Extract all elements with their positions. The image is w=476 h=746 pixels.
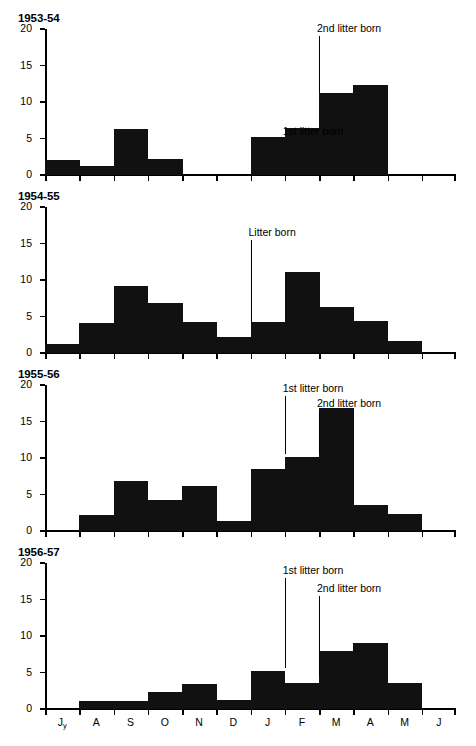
x-axis-tick — [422, 353, 424, 359]
x-axis-tick — [45, 709, 47, 715]
y-axis-tick-label: 15 — [20, 416, 32, 426]
bar-M — [319, 307, 354, 353]
y-axis-line — [45, 29, 47, 175]
annotation-line — [319, 596, 320, 676]
y-axis-tick-label: 10 — [20, 96, 32, 106]
x-axis-tick — [148, 709, 150, 715]
x-axis-tick — [45, 353, 47, 359]
litter-bar-chart-figure: 1953-54051015201st litter born2nd litter… — [0, 0, 476, 746]
y-axis-tick: 15 — [40, 243, 45, 245]
x-axis-label-D: D — [230, 717, 238, 728]
bar-S — [114, 286, 149, 353]
y-axis-tick-label: 0 — [26, 169, 32, 179]
bar-A — [79, 701, 114, 709]
bar-M — [388, 341, 423, 353]
x-axis-tick — [114, 353, 116, 359]
x-axis-tick — [388, 353, 390, 359]
x-axis-tick — [454, 531, 456, 537]
x-axis-label-F: F — [299, 717, 305, 728]
y-axis-tick: 5 — [40, 316, 45, 318]
x-axis-tick — [79, 175, 81, 181]
y-axis-tick-label: 5 — [26, 667, 32, 677]
x-axis-label-M: M — [400, 717, 409, 728]
x-axis-label-A: A — [367, 717, 374, 728]
bar-A — [353, 85, 388, 175]
annotation-line — [285, 396, 286, 454]
x-axis-tick — [319, 353, 321, 359]
plot-area: 05101520JyASONDJFMAMJ1st litter born2nd … — [45, 563, 456, 709]
bar-O — [148, 159, 183, 175]
x-axis-tick — [454, 175, 456, 181]
x-axis-tick — [251, 353, 253, 359]
x-axis-tick — [182, 175, 184, 181]
x-axis-tick — [454, 709, 456, 715]
x-axis-tick — [353, 531, 355, 537]
x-axis-tick — [182, 353, 184, 359]
y-axis-line — [45, 207, 47, 353]
x-axis-label-S: S — [127, 717, 134, 728]
x-axis-tick — [182, 531, 184, 537]
annotation-line — [319, 36, 320, 92]
annotation-line — [251, 240, 252, 322]
plot-area: 051015201st litter born2nd litter born — [45, 385, 456, 531]
x-axis-tick — [216, 353, 218, 359]
y-axis-tick-label: 10 — [20, 452, 32, 462]
bar-J — [251, 137, 286, 175]
y-axis-tick-label: 5 — [26, 311, 32, 321]
x-axis-tick — [45, 175, 47, 181]
x-axis-tick — [251, 175, 253, 181]
bar-M — [388, 514, 423, 531]
annotation-label: 2nd litter born — [317, 583, 381, 594]
x-axis-tick — [114, 531, 116, 537]
y-axis-tick: 20 — [40, 562, 45, 564]
y-axis-tick: 20 — [40, 384, 45, 386]
bar-F — [285, 272, 320, 353]
x-axis-tick — [285, 709, 287, 715]
x-axis-label-J: J — [265, 717, 270, 728]
x-axis-tick — [79, 531, 81, 537]
x-axis-tick — [388, 709, 390, 715]
bar-A — [79, 323, 114, 353]
x-axis-label-N: N — [195, 717, 203, 728]
bar-S — [114, 481, 149, 531]
x-axis-label-A: A — [93, 717, 100, 728]
bar-D — [216, 521, 251, 531]
x-axis-label-O: O — [161, 717, 169, 728]
y-axis-tick: 10 — [40, 101, 45, 103]
bar-A — [79, 166, 114, 175]
x-axis-tick — [388, 175, 390, 181]
x-axis-tick — [353, 353, 355, 359]
bar-M — [319, 651, 354, 709]
annotation-label: 2nd litter born — [317, 23, 381, 34]
y-axis-tick: 10 — [40, 457, 45, 459]
bar-A — [79, 515, 114, 531]
y-axis-tick-label: 5 — [26, 133, 32, 143]
x-axis-tick — [422, 709, 424, 715]
x-axis-tick — [251, 709, 253, 715]
y-axis-tick-label: 10 — [20, 274, 32, 284]
annotation-label: 1st litter born — [283, 126, 344, 137]
bar-S — [114, 701, 149, 709]
y-axis-tick-label: 0 — [26, 347, 32, 357]
y-axis-tick-label: 20 — [20, 201, 32, 211]
y-axis-tick-label: 20 — [20, 23, 32, 33]
annotation-label: 1st litter born — [283, 565, 344, 576]
annotation-label: Litter born — [249, 227, 296, 238]
x-axis-tick — [285, 353, 287, 359]
x-axis-tick — [114, 709, 116, 715]
x-axis-tick — [79, 353, 81, 359]
bar-A — [353, 643, 388, 709]
x-axis-tick — [148, 531, 150, 537]
bar-A — [353, 505, 388, 531]
bar-J — [251, 322, 286, 353]
x-axis-tick — [422, 175, 424, 181]
bar-O — [148, 303, 183, 353]
x-axis-tick — [319, 709, 321, 715]
chart-panel-1953-54: 1953-54051015201st litter born2nd litter… — [0, 12, 476, 184]
x-axis-tick — [79, 709, 81, 715]
bar-N — [182, 322, 217, 353]
x-axis-tick — [319, 531, 321, 537]
plot-area: 05101520Litter born — [45, 207, 456, 353]
x-axis-tick — [148, 353, 150, 359]
y-axis-tick: 5 — [40, 494, 45, 496]
